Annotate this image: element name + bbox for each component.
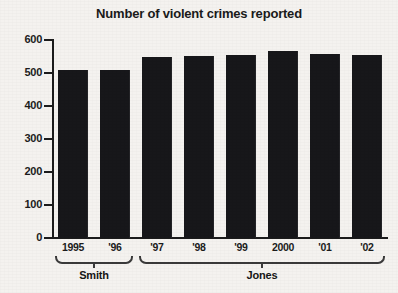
y-axis-tick <box>44 72 53 74</box>
x-axis-tick-label: '98 <box>178 241 220 253</box>
bar <box>268 51 298 238</box>
bar-chart: Number of violent crimes reported 600500… <box>0 0 398 293</box>
x-axis-tick-label: 2000 <box>262 241 304 253</box>
group-bracket-stem <box>93 263 95 268</box>
group-label: Smith <box>55 269 134 281</box>
chart-title: Number of violent crimes reported <box>0 6 398 21</box>
y-axis-tick-label: 600 <box>0 33 42 45</box>
x-axis-tick-label: 1995 <box>52 241 94 253</box>
y-axis-tick-label: 300 <box>0 132 42 144</box>
x-axis-tick-label: '96 <box>94 241 136 253</box>
y-axis-tick-label: 500 <box>0 66 42 78</box>
y-axis-tick <box>44 138 53 140</box>
x-axis-tick-label: '02 <box>346 241 388 253</box>
group-bracket-stem <box>261 263 263 268</box>
bar <box>142 57 172 238</box>
y-axis-tick <box>44 39 53 41</box>
y-axis-tick-label: 200 <box>0 165 42 177</box>
y-axis-tick <box>44 105 53 107</box>
y-axis-tick <box>44 171 53 173</box>
group-label: Jones <box>139 269 386 281</box>
bar <box>100 70 130 238</box>
bar <box>226 55 256 238</box>
bar <box>352 55 382 238</box>
bar <box>58 70 88 238</box>
bar <box>310 54 340 238</box>
bar <box>184 56 214 238</box>
x-axis-tick-label: '99 <box>220 241 262 253</box>
y-axis-tick-label: 400 <box>0 99 42 111</box>
y-axis-tick <box>44 204 53 206</box>
y-axis-tick-label: 0 <box>0 231 42 243</box>
x-axis-tick-label: '97 <box>136 241 178 253</box>
x-axis-tick-label: '01 <box>304 241 346 253</box>
y-axis-tick-label: 100 <box>0 198 42 210</box>
y-axis-tick <box>44 237 53 239</box>
